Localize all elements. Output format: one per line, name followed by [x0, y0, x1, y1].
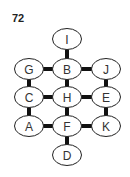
node-F: F: [53, 116, 82, 137]
node-J: J: [92, 59, 121, 80]
node-B: B: [53, 59, 82, 80]
nodes: IGBJCHEAFKD: [15, 29, 121, 166]
node-graph: IGBJCHEAFKD: [0, 0, 130, 177]
node-label: F: [63, 120, 70, 134]
node-G: G: [15, 59, 44, 80]
node-label: J: [103, 63, 109, 77]
node-C: C: [15, 87, 44, 108]
node-label: D: [63, 149, 72, 163]
node-label: C: [25, 91, 34, 105]
node-label: K: [102, 120, 110, 134]
node-label: E: [102, 91, 110, 105]
node-A: A: [15, 116, 44, 137]
node-D: D: [53, 145, 82, 166]
node-label: A: [25, 120, 33, 134]
node-H: H: [53, 87, 82, 108]
node-I: I: [53, 29, 82, 50]
node-label: H: [63, 91, 72, 105]
node-label: I: [65, 33, 68, 47]
node-label: B: [63, 63, 71, 77]
node-label: G: [24, 63, 33, 77]
node-E: E: [92, 87, 121, 108]
node-K: K: [92, 116, 121, 137]
